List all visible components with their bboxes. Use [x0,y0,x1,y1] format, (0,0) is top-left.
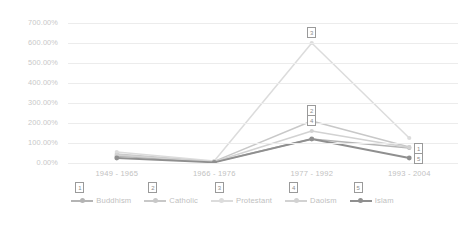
data-point [114,156,119,161]
y-axis-tick-label: 400.00% [0,79,58,87]
gridline [68,83,458,84]
legend-badge-1: 1 [75,182,84,193]
line-chart: 700.00%600.00%500.00%400.00%300.00%200.0… [0,0,465,225]
legend-label: Protestant [236,196,272,205]
y-axis-tick-label: 0.00% [0,159,58,167]
legend-label: Buddhism [96,196,131,205]
y-axis-tick-label: 500.00% [0,59,58,67]
legend-marker-icon [144,197,166,204]
legend-marker-icon [350,197,372,204]
data-point [407,136,411,140]
legend-item-protestant[interactable]: 3Protestant [211,196,272,205]
gridline [68,43,458,44]
data-point [310,129,314,133]
x-axis-tick-label: 1966 - 1976 [169,169,259,178]
gridline [68,23,458,24]
data-point [407,156,412,161]
y-axis-tick-label: 600.00% [0,39,58,47]
x-axis-tick-label: 1949 - 1965 [72,169,162,178]
data-point [407,145,411,149]
legend-item-islam[interactable]: 5Islam [350,196,394,205]
legend-badge-2: 2 [148,182,157,193]
gridline [68,63,458,64]
legend-badge-5: 5 [354,182,363,193]
legend-item-buddhism[interactable]: 1Buddhism [71,196,131,205]
gridline [68,163,458,164]
legend-marker-icon [285,197,307,204]
legend-badge-4: 4 [289,182,298,193]
x-axis-tick-label: 1977 - 1992 [267,169,357,178]
legend-marker-icon [211,197,233,204]
legend-label: Daoism [310,196,337,205]
y-axis-tick-label: 200.00% [0,119,58,127]
y-axis-tick-label: 700.00% [0,19,58,27]
chart-legend: 1Buddhism2Catholic3Protestant4Daoism5Isl… [0,196,465,205]
legend-label: Catholic [169,196,198,205]
x-axis-tick-label: 1993 - 2004 [364,169,454,178]
legend-item-catholic[interactable]: 2Catholic [144,196,198,205]
series-lines [68,23,458,163]
y-axis-tick-label: 100.00% [0,139,58,147]
legend-badge-3: 3 [215,182,224,193]
callout-badge-3: 3 [307,27,316,38]
gridline [68,143,458,144]
data-point [309,137,314,142]
plot-area [68,23,458,163]
legend-label: Islam [375,196,394,205]
gridline [68,123,458,124]
y-axis-tick-label: 300.00% [0,99,58,107]
legend-item-daoism[interactable]: 4Daoism [285,196,337,205]
callout-badge-5: 5 [414,153,423,164]
callout-badge-4: 4 [307,115,316,126]
gridline [68,103,458,104]
legend-marker-icon [71,197,93,204]
